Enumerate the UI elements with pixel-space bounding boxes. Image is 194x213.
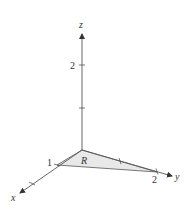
x-axis-label: x [10, 192, 16, 203]
y-axis-label: y [174, 171, 180, 182]
z-tick-label-2: 2 [70, 60, 75, 71]
y-tick-label-2: 2 [152, 174, 157, 185]
z-axis-label: z [78, 19, 83, 30]
region-label: R [80, 155, 87, 166]
coordinate-diagram: z 2 y 2 1 x R [0, 0, 194, 213]
region-r [57, 150, 157, 172]
x-tick-label-1: 1 [47, 157, 52, 168]
